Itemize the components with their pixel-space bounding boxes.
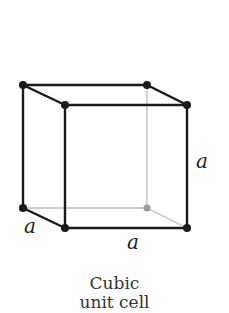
edge-top-left-depth: [23, 85, 65, 105]
vertex-bottom-back-left: [19, 204, 27, 212]
caption-line-2: unit cell: [0, 293, 229, 312]
vertex-top-front-left: [61, 101, 69, 109]
vertex-top-back-right: [143, 81, 151, 89]
hidden-edge-bottom-right-depth: [147, 208, 187, 228]
vertex-top-back-left: [19, 81, 27, 89]
caption-line-1: Cubic: [0, 274, 229, 293]
vertices: [19, 81, 191, 232]
label-edge-width: a: [127, 230, 139, 254]
vertex-bottom-front-left: [61, 224, 69, 232]
vertex-top-front-right: [183, 101, 191, 109]
vertex-bottom-back-right-hidden: [144, 205, 151, 212]
vertex-bottom-front-right: [183, 224, 191, 232]
edge-top-right-depth: [147, 85, 187, 105]
label-edge-depth: a: [24, 214, 36, 238]
visible-edges: [23, 85, 187, 228]
hidden-edges: [23, 85, 187, 228]
label-edge-height: a: [196, 149, 208, 173]
cubic-unit-cell-diagram: a a a: [0, 0, 229, 313]
